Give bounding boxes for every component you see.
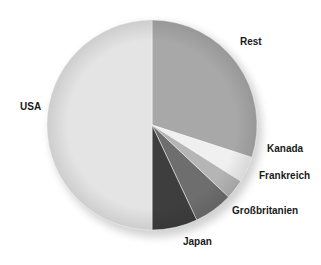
label-usa: USA bbox=[20, 101, 41, 112]
label-kanada: Kanada bbox=[267, 143, 303, 154]
pie-chart bbox=[0, 0, 321, 265]
pie-slice-usa bbox=[47, 20, 152, 230]
pie-slices bbox=[47, 20, 257, 230]
label-rest: Rest bbox=[240, 36, 262, 47]
label-frankreich: Frankreich bbox=[259, 170, 310, 181]
label-japan: Japan bbox=[183, 236, 212, 247]
label-grossbritanien: Großbritanien bbox=[232, 205, 298, 216]
